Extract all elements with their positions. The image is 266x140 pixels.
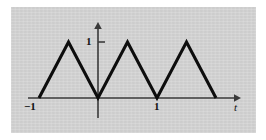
- x-axis-label-one: 1: [154, 101, 160, 112]
- y-axis-arrowhead: [94, 22, 102, 29]
- x-axis-variable-label: t: [234, 102, 237, 113]
- triangle-wave-curve: [39, 42, 216, 98]
- x-axis-label-negative-one: −1: [24, 101, 36, 112]
- figure-root: −1 1 1 t: [0, 0, 266, 140]
- plot-canvas: [0, 0, 266, 140]
- y-axis-label-one: 1: [86, 36, 92, 47]
